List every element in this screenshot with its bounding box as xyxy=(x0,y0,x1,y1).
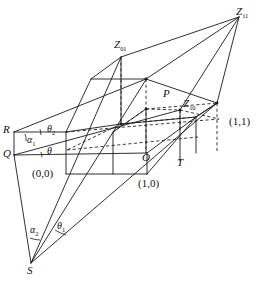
coordinate-label-1-1: (1,1) xyxy=(229,116,250,127)
point-label-Z10: Z10 xyxy=(183,98,195,112)
point-label-Q: Q xyxy=(3,148,11,159)
point-label-Z11: Z11 xyxy=(236,6,248,20)
point-label-R: R xyxy=(3,124,10,135)
geometry-canvas xyxy=(0,0,269,281)
angle-label-alpha1: α1 xyxy=(27,135,35,148)
point-label-P: P xyxy=(163,88,170,99)
angle-label-theta: θ xyxy=(47,146,52,159)
vertex-dots xyxy=(120,78,219,126)
solid-edges xyxy=(14,17,239,263)
angle-label-theta1: θ1 xyxy=(57,221,65,234)
geometry-figure: Z11 Z01 Z10 P R Q O T S (0,0) (1,0) (1,1… xyxy=(0,0,269,281)
angle-label-theta2: θ2 xyxy=(47,124,55,137)
coordinate-label-0-0: (0,0) xyxy=(32,168,53,179)
angle-label-alpha2: α2 xyxy=(30,225,38,238)
point-label-O: O xyxy=(142,152,150,163)
point-label-Z01: Z01 xyxy=(114,39,126,53)
point-label-S: S xyxy=(27,265,33,276)
point-label-T: T xyxy=(177,157,183,168)
coordinate-label-1-0: (1,0) xyxy=(138,178,159,189)
